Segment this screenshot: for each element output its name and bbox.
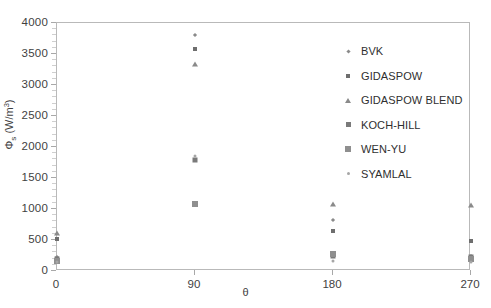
y-axis-title-unit-close: ) (3, 99, 15, 103)
x-axis-major-tick (332, 270, 333, 275)
x-axis-title: θ (0, 286, 491, 298)
y-axis-tick-label: 500 (28, 233, 48, 245)
y-axis-title: Φs (W/m3) (2, 92, 19, 156)
legend-marker-icon (343, 50, 353, 53)
y-axis-tick-label: 2500 (22, 109, 48, 121)
data-point (469, 239, 473, 243)
data-point (193, 158, 198, 163)
data-point (193, 33, 197, 37)
data-point (331, 229, 335, 233)
y-axis-tick-label: 1500 (22, 171, 48, 183)
chart-legend: BVKGIDASPOWGIDASPOW BLENDKOCH-HILLWEN-YU… (343, 39, 483, 186)
data-point (331, 217, 335, 221)
legend-marker-icon (343, 122, 353, 127)
data-point (192, 61, 198, 66)
y-axis-title-symbol: Φ (3, 141, 15, 150)
y-axis-tick-label: 3000 (22, 78, 48, 90)
legend-item-label: WEN-YU (361, 143, 406, 155)
legend-item-gidaspow[interactable]: GIDASPOW (343, 64, 483, 89)
data-point (330, 251, 336, 257)
data-point (470, 260, 473, 263)
data-point (54, 230, 60, 235)
y-axis-title-superscript: 3 (2, 103, 11, 107)
x-axis-major-tick (194, 270, 195, 275)
y-axis-title-subscript: s (9, 137, 18, 141)
legend-marker-icon (343, 146, 353, 152)
data-point (56, 261, 59, 264)
y-axis-tick-label: 4000 (22, 16, 48, 28)
plot-area: BVKGIDASPOWGIDASPOW BLENDKOCH-HILLWEN-YU… (56, 22, 470, 270)
data-point (194, 155, 197, 158)
y-axis-tick-label: 3500 (22, 47, 48, 59)
legend-item-label: GIDASPOW BLEND (361, 94, 463, 106)
legend-marker-icon (343, 172, 353, 175)
data-point (192, 201, 198, 207)
legend-item-koch-hill[interactable]: KOCH-HILL (343, 113, 483, 138)
legend-item-bvk[interactable]: BVK (343, 39, 483, 64)
y-axis-tick-label: 0 (41, 264, 48, 276)
legend-marker-icon (343, 74, 353, 78)
legend-item-wen-yu[interactable]: WEN-YU (343, 137, 483, 162)
y-axis-tick-label: 2000 (22, 140, 48, 152)
legend-marker-icon (343, 98, 353, 103)
data-point (330, 202, 336, 207)
data-point (332, 260, 335, 263)
y-axis-title-unit-open: (W/m (3, 107, 15, 136)
y-axis-major-tick (51, 270, 56, 271)
legend-item-label: GIDASPOW (361, 70, 422, 82)
legend-item-label: SYAMLAL (361, 168, 412, 180)
data-point (55, 237, 59, 241)
data-point (193, 47, 197, 51)
legend-item-syamlal[interactable]: SYAMLAL (343, 162, 483, 187)
legend-item-label: KOCH-HILL (361, 119, 421, 131)
legend-item-gidaspow-blend[interactable]: GIDASPOW BLEND (343, 88, 483, 113)
scatter-chart: 05001000150020002500300035004000 Φs (W/m… (0, 0, 491, 308)
y-axis-tick-label: 1000 (22, 202, 48, 214)
x-axis-major-tick (470, 270, 471, 275)
legend-item-label: BVK (361, 45, 383, 57)
data-point (468, 203, 474, 208)
